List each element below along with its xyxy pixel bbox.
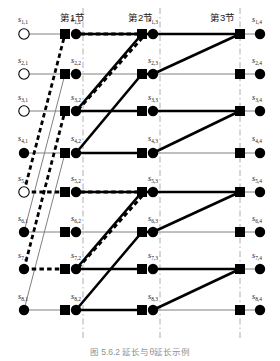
square-node[interactable] [137, 227, 147, 237]
node-label-s-1-1: s1,1 [18, 15, 28, 24]
node-label-subscript: 7,2 [74, 255, 81, 261]
node-label-s-4-3: s4,3 [148, 134, 158, 143]
node-label-subscript: 4,1 [21, 138, 28, 144]
circle-node-filled[interactable] [255, 106, 265, 116]
node-label-subscript: 6,3 [151, 218, 158, 224]
node-label-s-4-2: s4,2 [71, 134, 81, 143]
node-label-subscript: 1,1 [21, 19, 28, 25]
node-label-subscript: 2,1 [21, 60, 28, 66]
circle-node-filled[interactable] [19, 305, 29, 315]
circle-node-filled[interactable] [148, 227, 158, 237]
node-label-subscript: 6,1 [21, 218, 28, 224]
square-node[interactable] [60, 187, 70, 197]
square-node[interactable] [60, 148, 70, 158]
circle-node-filled[interactable] [148, 187, 158, 197]
circle-node-filled[interactable] [255, 227, 265, 237]
node-label-s-7-2: s7,2 [71, 251, 81, 260]
node-label-s-7-4: s7,4 [252, 251, 262, 260]
square-node[interactable] [235, 264, 245, 274]
node-label-s-1-4: s1,4 [252, 15, 262, 24]
square-node[interactable] [60, 69, 70, 79]
square-node[interactable] [235, 106, 245, 116]
square-node[interactable] [60, 227, 70, 237]
trellis-diagram [0, 0, 280, 361]
node-label-subscript: 1,2 [74, 19, 81, 25]
square-node[interactable] [235, 187, 245, 197]
node-label-s-5-2: s5,2 [71, 174, 81, 183]
circle-node-filled[interactable] [255, 69, 265, 79]
circle-node-filled[interactable] [255, 305, 265, 315]
square-node[interactable] [137, 148, 147, 158]
circle-node-filled[interactable] [148, 106, 158, 116]
node-label-subscript: 6,4 [255, 218, 262, 224]
node-label-s-8-3: s8,3 [148, 292, 158, 301]
node-label-s-4-1: s4,1 [18, 134, 28, 143]
circle-node-filled[interactable] [71, 29, 81, 39]
square-node[interactable] [60, 305, 70, 315]
circle-node-filled[interactable] [71, 227, 81, 237]
square-node[interactable] [137, 264, 147, 274]
square-node[interactable] [60, 29, 70, 39]
circle-node-filled[interactable] [255, 148, 265, 158]
circle-node-filled[interactable] [71, 106, 81, 116]
square-node[interactable] [60, 106, 70, 116]
circle-node-filled[interactable] [71, 264, 81, 274]
node-label-s-3-1: s3,1 [18, 93, 28, 102]
thick-solid-edge [153, 111, 240, 153]
circle-node-open[interactable] [19, 69, 29, 79]
circle-node-filled[interactable] [71, 305, 81, 315]
circle-node-filled[interactable] [255, 264, 265, 274]
circle-node-filled[interactable] [19, 148, 29, 158]
node-label-subscript: 3,3 [151, 97, 158, 103]
square-node[interactable] [137, 69, 147, 79]
node-label-subscript: 8,2 [74, 296, 81, 302]
circle-node-filled[interactable] [148, 148, 158, 158]
thick-solid-edge [153, 192, 240, 232]
circle-node-filled[interactable] [148, 305, 158, 315]
square-node[interactable] [235, 29, 245, 39]
node-label-subscript: 8,1 [21, 296, 28, 302]
circle-node-filled[interactable] [255, 187, 265, 197]
circle-node-filled[interactable] [148, 29, 158, 39]
square-node[interactable] [137, 106, 147, 116]
node-label-subscript: 8,3 [151, 296, 158, 302]
circle-node-filled[interactable] [148, 69, 158, 79]
circle-node-open[interactable] [19, 187, 29, 197]
thick-dashed-edge [24, 111, 65, 269]
node-label-s-6-3: s6,3 [148, 214, 158, 223]
circle-node-filled[interactable] [71, 148, 81, 158]
circle-node-open[interactable] [19, 106, 29, 116]
thick-dashed-edge [24, 34, 65, 192]
circle-node-filled[interactable] [71, 69, 81, 79]
figure-caption: 图 5.6.2 延长与θ延长示例 [0, 345, 280, 357]
square-node[interactable] [235, 148, 245, 158]
circle-node-open[interactable] [19, 29, 29, 39]
circle-node-filled[interactable] [71, 187, 81, 197]
square-node[interactable] [137, 305, 147, 315]
circle-node-filled[interactable] [255, 29, 265, 39]
node-label-subscript: 5,4 [255, 178, 262, 184]
node-label-s-7-3: s7,3 [148, 251, 158, 260]
square-node[interactable] [137, 29, 147, 39]
thick-solid-edge [153, 269, 240, 310]
circle-node-filled[interactable] [19, 264, 29, 274]
node-label-subscript: 4,2 [74, 138, 81, 144]
square-node[interactable] [60, 264, 70, 274]
circle-node-filled[interactable] [148, 264, 158, 274]
node-label-subscript: 2,3 [151, 60, 158, 66]
square-node[interactable] [137, 187, 147, 197]
circle-node-filled[interactable] [19, 227, 29, 237]
node-label-subscript: 8,4 [255, 296, 262, 302]
node-label-subscript: 6,2 [74, 218, 81, 224]
square-node[interactable] [235, 69, 245, 79]
node-label-subscript: 4,3 [151, 138, 158, 144]
square-node[interactable] [235, 227, 245, 237]
divider-layer [83, 8, 240, 340]
node-label-s-2-4: s2,4 [252, 56, 262, 65]
node-label-s-8-4: s8,4 [252, 292, 262, 301]
node-label-subscript: 4,4 [255, 138, 262, 144]
thick-solid-edge [76, 232, 142, 310]
node-label-subscript: 5,1 [21, 178, 28, 184]
square-node[interactable] [235, 305, 245, 315]
node-label-s-5-3: s5,3 [148, 174, 158, 183]
